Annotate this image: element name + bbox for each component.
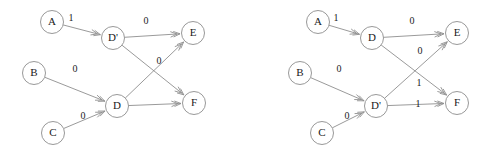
node-Dp[interactable]: D' bbox=[102, 27, 125, 50]
figure-root: 10000AD'EBDFC1000011ADEBD'FC bbox=[0, 0, 488, 157]
node-C[interactable]: C bbox=[42, 122, 65, 145]
node-E[interactable]: E bbox=[182, 22, 205, 45]
edge-Dp-to-E: 0 bbox=[124, 15, 180, 37]
node-label: D' bbox=[371, 99, 381, 111]
edge-label: 1 bbox=[417, 77, 422, 88]
node-label: C bbox=[49, 126, 56, 138]
node-F[interactable]: F bbox=[183, 92, 206, 115]
right-state-graph: 1000011ADEBD'FC bbox=[289, 11, 469, 145]
node-label: D bbox=[368, 31, 376, 43]
edge-D-to-E: 0 bbox=[383, 15, 444, 37]
edge-D-to-F: 1 bbox=[381, 45, 447, 95]
node-label: E bbox=[454, 26, 461, 38]
edge-label: 0 bbox=[410, 15, 415, 26]
edge-D-to-E: 0 bbox=[125, 42, 183, 98]
node-B[interactable]: B bbox=[289, 62, 312, 85]
edge-label: 0 bbox=[418, 45, 423, 56]
node-label: D' bbox=[108, 31, 118, 43]
node-E[interactable]: E bbox=[446, 22, 469, 45]
node-B[interactable]: B bbox=[23, 62, 46, 85]
edge-label: 1 bbox=[416, 98, 421, 109]
node-label: B bbox=[30, 66, 37, 78]
edge-A-to-D: 1 bbox=[329, 12, 360, 35]
edge-A-to-Dp: 1 bbox=[63, 12, 100, 35]
edge-Dp-to-F: 1 bbox=[387, 98, 444, 109]
node-label: C bbox=[318, 126, 325, 138]
node-label: A bbox=[48, 15, 56, 27]
edge-label: 0 bbox=[81, 110, 86, 121]
edge-label: 0 bbox=[73, 63, 78, 74]
graph-canvas: 10000AD'EBDFC1000011ADEBD'FC bbox=[0, 0, 488, 157]
edge-label: 0 bbox=[345, 110, 350, 121]
edge-Dp-to-E: 0 bbox=[385, 42, 448, 99]
node-label: E bbox=[190, 26, 197, 38]
edge-C-to-D: 0 bbox=[64, 110, 105, 128]
node-A[interactable]: A bbox=[307, 11, 330, 34]
edge-B-to-Dp: 0 bbox=[311, 63, 365, 101]
edge-B-to-D: 0 bbox=[45, 63, 105, 101]
node-F[interactable]: F bbox=[446, 92, 469, 115]
node-C[interactable]: C bbox=[311, 122, 334, 145]
node-D[interactable]: D bbox=[106, 95, 129, 118]
edge-D-to-F bbox=[128, 101, 181, 106]
node-label: A bbox=[314, 15, 322, 27]
edge-Dp-to-F bbox=[122, 45, 184, 95]
node-label: D bbox=[113, 99, 121, 111]
left-state-graph: 10000AD'EBDFC bbox=[23, 11, 206, 145]
edge-label: 0 bbox=[337, 63, 342, 74]
node-A[interactable]: A bbox=[41, 11, 64, 34]
node-D[interactable]: D bbox=[361, 27, 384, 50]
node-label: F bbox=[191, 96, 197, 108]
edge-label: 0 bbox=[157, 55, 162, 66]
edge-label: 1 bbox=[69, 12, 74, 23]
edge-label: 0 bbox=[144, 15, 149, 26]
edge-C-to-Dp: 0 bbox=[332, 110, 364, 128]
node-label: F bbox=[454, 96, 460, 108]
node-label: B bbox=[296, 66, 303, 78]
edge-label: 1 bbox=[334, 12, 339, 23]
node-Dp[interactable]: D' bbox=[365, 95, 388, 118]
